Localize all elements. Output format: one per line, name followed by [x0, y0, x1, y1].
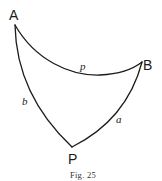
vertex-label-b: B: [143, 57, 152, 73]
edge-p-curve: [15, 25, 142, 75]
edge-label-p: p: [79, 60, 86, 72]
vertex-label-p: P: [68, 151, 77, 167]
figure-caption: Fig. 25: [70, 170, 96, 180]
edge-b-curve: [15, 25, 72, 147]
spherical-triangle-figure: A B P p b a Fig. 25: [0, 0, 162, 181]
edge-label-a: a: [116, 113, 122, 125]
edge-label-b: b: [22, 95, 28, 107]
vertex-label-a: A: [9, 7, 19, 23]
diagram-canvas: A B P p b a Fig. 25: [0, 0, 162, 181]
